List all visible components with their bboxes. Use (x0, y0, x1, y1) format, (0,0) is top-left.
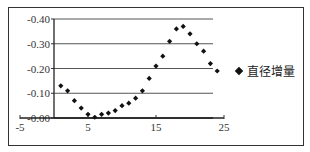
x-tick-label: 15 (151, 121, 163, 133)
y-tick-label: -0.20 (27, 63, 50, 75)
legend: 直径增量 (236, 62, 295, 79)
data-point (160, 54, 165, 59)
data-point (174, 26, 179, 31)
data-point (65, 88, 70, 93)
data-point (187, 31, 192, 36)
x-tick-label: 25 (219, 121, 231, 133)
data-point (126, 101, 131, 106)
data-point (58, 83, 63, 88)
data-point (201, 49, 206, 54)
data-point (153, 63, 158, 68)
data-point (147, 76, 152, 81)
x-tick-label: -5 (15, 121, 25, 133)
legend-label: 直径增量 (247, 62, 295, 79)
y-tick-label: -0.30 (27, 38, 50, 50)
data-point (72, 98, 77, 103)
x-tick-label: 5 (85, 121, 91, 133)
data-point (106, 110, 111, 115)
data-point (119, 103, 124, 108)
y-tick-label: -0.10 (27, 87, 50, 99)
data-point (181, 24, 186, 29)
data-point (215, 68, 220, 73)
data-point (85, 112, 90, 117)
diamond-marker-icon (235, 66, 243, 74)
data-point (133, 96, 138, 101)
data-point (99, 112, 104, 117)
data-point (113, 108, 118, 113)
data-point (167, 39, 172, 44)
data-point (79, 106, 84, 111)
data-point (194, 41, 199, 46)
y-tick-label: -0.40 (27, 13, 50, 25)
data-point (208, 61, 213, 66)
data-point (140, 88, 145, 93)
data-point (92, 115, 97, 120)
